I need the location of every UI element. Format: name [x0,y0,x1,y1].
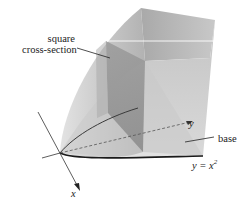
y-axis-label: y [189,119,194,130]
origin-tick [42,153,60,158]
equation-exponent: 2 [214,158,218,166]
solid-cross-section-diagram: square cross-section base y = x2 x y [0,0,243,201]
cross-section-label: cross-section [22,45,77,56]
equation-text: y = x [192,160,214,171]
curve-equation-label: y = x2 [192,161,217,172]
top-surface [141,8,215,61]
square-label: square [41,34,75,45]
cross-section-left-face [96,41,108,118]
x-axis-label: x [71,189,76,200]
base-label: base [218,134,237,145]
